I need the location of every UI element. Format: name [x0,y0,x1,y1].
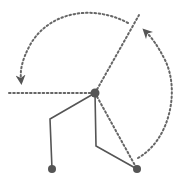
rotation-diagram [0,0,184,185]
large-rotation-arc [21,13,128,80]
upper-right-reference-line [95,15,139,93]
left-arm [50,93,95,169]
pivot-point [91,89,100,98]
reference-lines [9,15,139,169]
small-rotation-arc [138,32,172,158]
arms [48,93,141,173]
left-arm-end-dot [48,165,56,173]
right-arm-end-dot [133,165,141,173]
